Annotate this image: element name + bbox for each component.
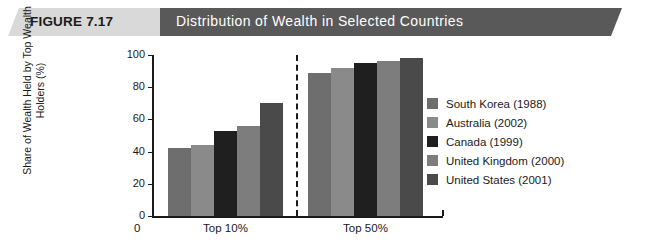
bar [191, 145, 214, 216]
y-tick-mark [148, 87, 152, 88]
y-tick-label: 0 [119, 209, 145, 221]
x-tick-label: Top 50% [296, 222, 435, 234]
axis-origin-label: 0 [134, 222, 140, 234]
y-tick-mark [148, 216, 152, 217]
bar [214, 131, 237, 216]
bar [377, 61, 400, 216]
y-tick-label: 100 [119, 48, 145, 60]
legend-label: Australia (2002) [446, 117, 527, 129]
x-tick-label: Top 10% [156, 222, 295, 234]
y-tick-mark [148, 55, 152, 56]
legend-item: Canada (1999) [427, 132, 564, 151]
bar [260, 103, 283, 216]
legend-item: South Korea (1988) [427, 94, 564, 113]
bar [400, 58, 423, 216]
legend-label: United Kingdom (2000) [446, 155, 564, 167]
y-tick-mark [148, 184, 152, 185]
legend-label: South Korea (1988) [446, 98, 546, 110]
legend-item: United Kingdom (2000) [427, 151, 564, 170]
chart-legend: South Korea (1988)Australia (2002)Canada… [427, 94, 564, 189]
legend-swatch [427, 117, 438, 128]
bar [331, 68, 354, 216]
y-tick-label: 40 [119, 145, 145, 157]
legend-swatch [427, 174, 438, 185]
x-axis-right-cap [442, 210, 444, 216]
bar [354, 63, 377, 216]
bar [237, 126, 260, 216]
legend-label: Canada (1999) [446, 136, 523, 148]
y-tick-label: 80 [119, 80, 145, 92]
legend-item: United States (2001) [427, 170, 564, 189]
bar [308, 73, 331, 216]
legend-swatch [427, 155, 438, 166]
legend-item: Australia (2002) [427, 113, 564, 132]
bar [168, 148, 191, 216]
y-axis-title: Share of Wealth Held by Top Wealth Holde… [21, 6, 46, 176]
y-tick-label: 20 [119, 177, 145, 189]
y-axis-line [152, 55, 154, 216]
legend-swatch [427, 98, 438, 109]
y-tick-mark [148, 152, 152, 153]
x-axis-line [152, 216, 443, 218]
group-divider-line [296, 55, 298, 216]
legend-swatch [427, 136, 438, 147]
y-tick-label: 60 [119, 112, 145, 124]
y-tick-mark [148, 119, 152, 120]
legend-label: United States (2001) [446, 174, 551, 186]
